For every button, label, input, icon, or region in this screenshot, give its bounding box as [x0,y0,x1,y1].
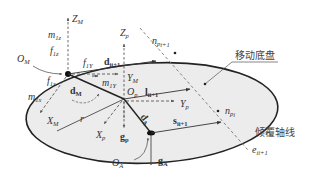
svg-text:f1z: f1z [50,45,59,57]
svg-text:f1x: f1x [47,75,56,87]
svg-text:r: r [80,113,84,124]
svg-text:eii+1: eii+1 [252,144,268,156]
svg-text:m1z: m1z [48,29,61,41]
chassis-label: 移动底盘 [235,49,275,61]
tipover-axis-label: 倾覆轴线 [255,126,295,138]
chassis-platform [24,56,281,169]
svg-text:OM: OM [17,53,30,65]
svg-text:ZM: ZM [72,13,84,25]
svg-text:f1Y: f1Y [83,57,94,69]
svg-text:npi+1: npi+1 [152,35,170,48]
chassis-diagram: ZM m1z f1z OM Zp npi+1 f1Y dii+1 YM m1Y … [0,0,311,178]
svg-text:m1x: m1x [28,91,41,103]
o-m-pointer [33,66,62,74]
svg-text:Zp: Zp [120,27,130,39]
svg-text:dii+1: dii+1 [104,56,120,68]
